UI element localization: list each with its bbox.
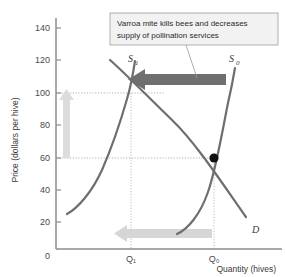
callout-line-2: supply of pollination services bbox=[117, 31, 219, 40]
supply-s1-label: S bbox=[128, 53, 133, 64]
callout-leader-line bbox=[186, 45, 197, 78]
supply-curve-s0 bbox=[177, 68, 235, 234]
supply-s1-label-subscript: 1 bbox=[135, 59, 139, 67]
supply-demand-chart: 140 120 100 80 60 40 20 0 Q₁ Q₀ Price (d… bbox=[0, 0, 285, 277]
callout-line-1: Varroa mite kills bees and decreases bbox=[117, 19, 248, 28]
supply-s0-label: S bbox=[229, 53, 234, 64]
callout-box-background bbox=[110, 13, 278, 45]
quantity-fall-arrow bbox=[114, 225, 212, 242]
y-tick-labels: 140 120 100 80 60 40 20 0 bbox=[35, 23, 50, 261]
quantity-fall-arrow-shape bbox=[114, 225, 212, 242]
x-tick-label-q1: Q₁ bbox=[126, 254, 136, 264]
y-tick-label-60: 60 bbox=[40, 153, 50, 163]
y-tick-label-120: 120 bbox=[35, 55, 50, 65]
chart-canvas: 140 120 100 80 60 40 20 0 Q₁ Q₀ Price (d… bbox=[0, 0, 285, 277]
y-tick-label-100: 100 bbox=[35, 88, 50, 98]
supply-shift-arrow bbox=[128, 69, 226, 90]
y-tick-label-20: 20 bbox=[40, 217, 50, 227]
equilibrium-dot-original bbox=[209, 153, 218, 162]
y-tick-label-140: 140 bbox=[35, 23, 50, 33]
callout-box: Varroa mite kills bees and decreases sup… bbox=[110, 13, 278, 45]
x-tick-labels: Q₁ Q₀ bbox=[126, 254, 220, 264]
y-tick-label-40: 40 bbox=[40, 185, 50, 195]
price-rise-arrow bbox=[59, 89, 74, 158]
y-tick-label-80: 80 bbox=[40, 120, 50, 130]
supply-curve-s1 bbox=[67, 61, 135, 214]
axes bbox=[56, 18, 282, 249]
supply-s0-label-subscript: 0 bbox=[236, 59, 240, 67]
x-tick-label-q0: Q₀ bbox=[209, 254, 220, 264]
supply-shift-arrow-shape bbox=[128, 69, 226, 90]
y-tick-label-0: 0 bbox=[45, 251, 50, 261]
curves bbox=[67, 60, 246, 234]
demand-label: D bbox=[251, 224, 260, 235]
y-axis-title: Price (dollars per hive) bbox=[10, 97, 20, 182]
guide-lines bbox=[56, 93, 214, 249]
price-rise-arrow-shape bbox=[59, 89, 74, 158]
x-axis-title: Quantity (hives) bbox=[216, 264, 276, 274]
